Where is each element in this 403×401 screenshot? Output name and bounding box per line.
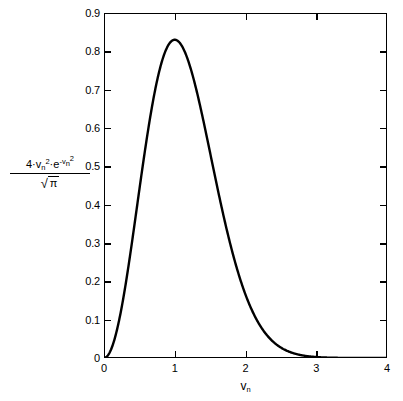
x-axis-tick-labels: 0 1 2 3 4 <box>104 362 387 378</box>
x-tick-label: 0 <box>101 362 107 374</box>
distribution-curve <box>104 13 387 358</box>
y-tick-label: 0 <box>94 352 100 364</box>
y-tick-label: 0.7 <box>85 84 100 96</box>
y-tick-label: 0.4 <box>85 199 100 211</box>
y-tick-label: 0.8 <box>85 45 100 57</box>
chart-figure: 4·vn2·e-vn2 √ π 0.9 0.8 0.7 0.6 0.5 0.4 … <box>0 0 403 401</box>
x-tick-label: 4 <box>384 362 390 374</box>
curve-polyline <box>104 40 387 358</box>
y-axis-tick-labels: 0.9 0.8 0.7 0.6 0.5 0.4 0.3 0.2 0.1 0 <box>64 13 100 358</box>
y-title-coefficient: 4· <box>26 158 36 170</box>
radicand-pi: π <box>48 176 60 191</box>
y-tick-label: 0.1 <box>85 314 100 326</box>
y-tick-label: 0.2 <box>85 275 100 287</box>
x-axis-title: vn <box>104 379 387 393</box>
plot-area <box>104 13 387 358</box>
y-tick-label: 0.5 <box>85 160 100 172</box>
square-root-icon: √ π <box>41 176 60 191</box>
y-tick-label: 0.3 <box>85 237 100 249</box>
x-tick-label: 1 <box>172 362 178 374</box>
y-tick-label: 0.9 <box>85 7 100 19</box>
radical-sign: √ <box>41 177 48 190</box>
x-title-sub-n: n <box>246 385 250 394</box>
x-tick-label: 2 <box>242 362 248 374</box>
y-tick-label: 0.6 <box>85 122 100 134</box>
x-tick-label: 3 <box>313 362 319 374</box>
